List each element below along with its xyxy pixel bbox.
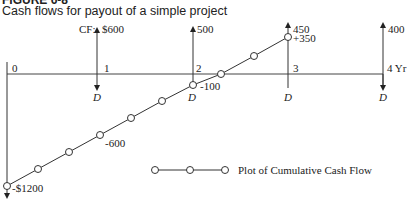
cash-flow-year-4: 400: [388, 24, 405, 35]
cumulative-label-mid: -600: [105, 138, 125, 149]
cumulative-label-year2: -100: [200, 81, 220, 92]
cumulative-label-year3: +350: [293, 33, 316, 44]
year-label-2: 2: [196, 63, 202, 74]
year-label-3: 3: [293, 63, 299, 74]
cumulative-label-start: -$1200: [12, 183, 43, 194]
year-label-4: 4 Yr: [387, 63, 406, 74]
year-label-0: 0: [12, 63, 18, 74]
year-label-1: 1: [104, 63, 110, 74]
cf-prefix: CF:: [79, 24, 96, 35]
depreciation-label-2: D: [188, 92, 196, 103]
depreciation-label-1: D: [93, 92, 101, 103]
depreciation-label-4: D: [379, 92, 387, 103]
depreciation-label-3: D: [284, 92, 292, 103]
cash-flow-year-2: 500: [197, 24, 214, 35]
legend-label: Plot of Cumulative Cash Flow: [238, 165, 372, 176]
cash-flow-year-1: $600: [102, 24, 124, 35]
